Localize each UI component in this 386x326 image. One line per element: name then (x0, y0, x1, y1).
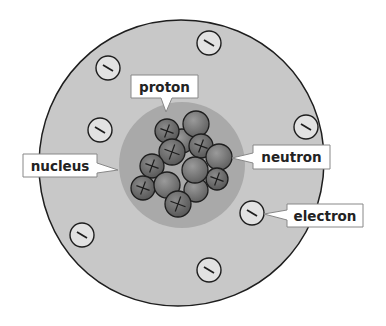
label-neutron-text: neutron (261, 149, 321, 165)
electron (88, 118, 112, 142)
neutron (182, 157, 208, 183)
proton (165, 191, 191, 217)
atom-diagram: proton nucleus neutron electron (0, 0, 386, 326)
electron (197, 31, 221, 55)
neutron (206, 144, 232, 170)
electron (240, 201, 264, 225)
label-electron-text: electron (294, 208, 357, 224)
neutron (183, 111, 209, 137)
proton (206, 168, 228, 190)
electron (70, 223, 94, 247)
electron (197, 258, 221, 282)
label-nucleus-text: nucleus (31, 158, 90, 174)
proton (131, 176, 155, 200)
electron (96, 56, 120, 80)
label-proton-text: proton (139, 79, 190, 95)
electron (294, 115, 318, 139)
